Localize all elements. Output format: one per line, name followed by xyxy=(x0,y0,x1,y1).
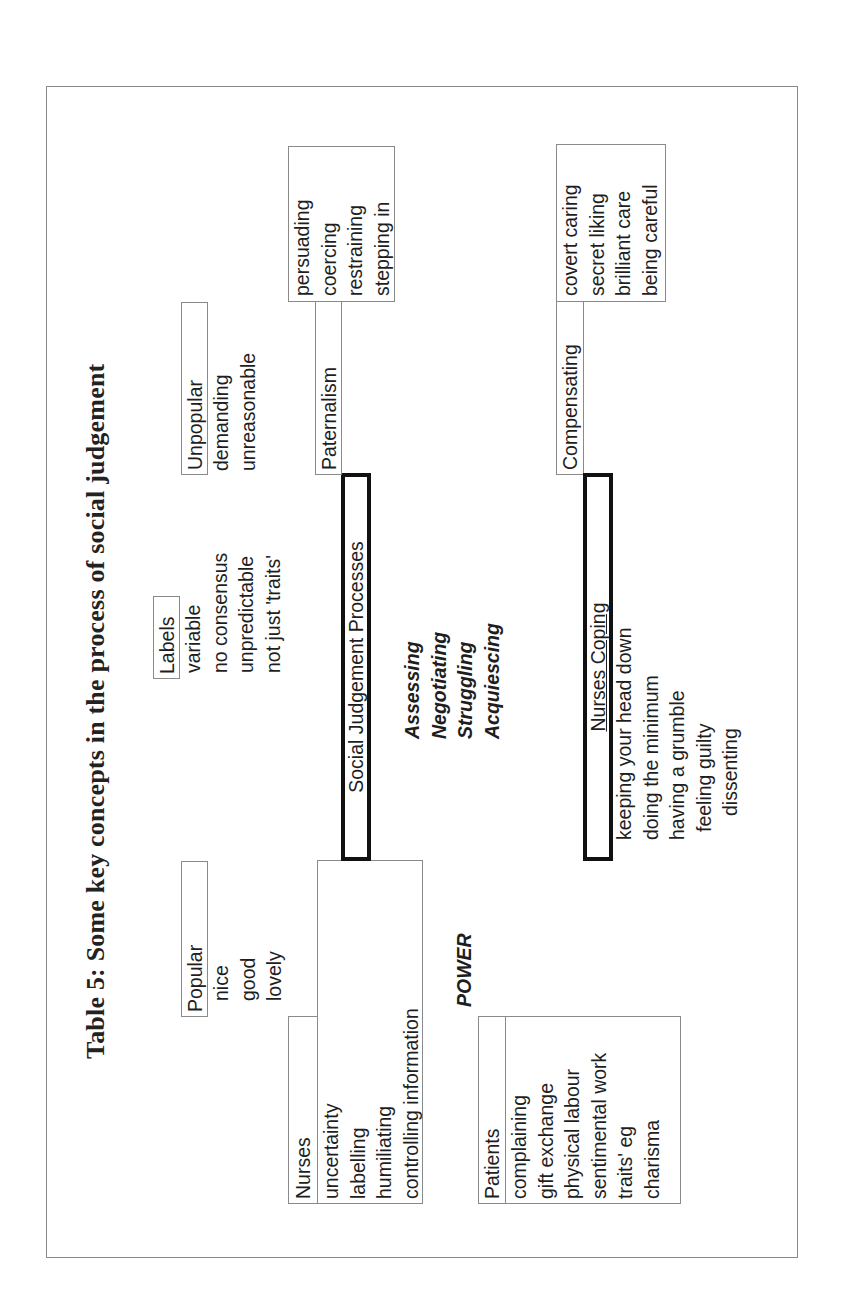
list-item: persuading xyxy=(289,147,316,296)
list-item: being careful xyxy=(637,145,664,296)
list-item: doing the minimum xyxy=(638,628,665,841)
list-item: nice xyxy=(208,951,235,1009)
popular-heading: Popular xyxy=(184,945,206,1012)
list-item: having a grumble xyxy=(664,628,691,841)
patients-list-box: complaining gift exchange physical labou… xyxy=(505,1016,681,1204)
list-item: restraining xyxy=(342,147,369,296)
list-item: covert caring xyxy=(557,145,584,296)
processes-list: Assessing Negotiating Struggling Acquies… xyxy=(399,623,505,739)
unpopular-heading: Unpopular xyxy=(184,380,206,470)
nurses-coping-list: keeping your head down doing the minimum… xyxy=(611,628,744,841)
paternalism-heading-box: Paternalism xyxy=(315,301,342,475)
list-item: controlling information xyxy=(398,861,425,1199)
unpopular-list: demanding unreasonable xyxy=(208,353,261,471)
list-item: unpredictable xyxy=(233,553,260,673)
process-assessing: Assessing xyxy=(399,623,426,739)
list-item: dissenting xyxy=(717,628,744,841)
list-item: charisma xyxy=(639,1017,666,1199)
list-item: traits' eg xyxy=(612,1017,639,1199)
list-item: variable xyxy=(180,553,207,673)
paternalism-heading: Paternalism xyxy=(318,367,340,470)
compensating-list-box: covert caring secret liking brilliant ca… xyxy=(556,144,666,302)
labels-heading-box: Labels xyxy=(153,596,180,679)
list-item: good xyxy=(235,951,262,1009)
labels-heading: Labels xyxy=(156,617,178,674)
list-item: stepping in xyxy=(369,147,396,296)
list-item: secret liking xyxy=(584,145,611,296)
list-item: humiliating xyxy=(371,861,398,1199)
power-label: POWER xyxy=(451,933,477,1007)
nurses-heading-box: Nurses xyxy=(288,1016,318,1204)
list-item: feeling guilty xyxy=(691,628,718,841)
list-item: lovely xyxy=(261,951,288,1009)
process-acquiescing: Acquiescing xyxy=(479,623,506,739)
nurses-coping-heading: Nurses Coping xyxy=(587,603,609,732)
list-item: unreasonable xyxy=(235,353,262,471)
list-item: complaining xyxy=(506,1017,533,1199)
process-negotiating: Negotiating xyxy=(426,623,453,739)
list-item: coercing xyxy=(316,147,343,296)
nurses-heading: Nurses xyxy=(292,1137,314,1199)
patients-heading-box: Patients xyxy=(478,1016,506,1204)
compensating-heading: Compensating xyxy=(559,344,581,470)
popular-heading-box: Popular xyxy=(181,861,208,1017)
list-item: sentimental work xyxy=(586,1017,613,1199)
list-item: demanding xyxy=(208,353,235,471)
labels-list: variable no consensus unpredictable not … xyxy=(180,553,286,673)
list-item: physical labour xyxy=(559,1017,586,1199)
diagram-frame: Table 5: Some key concepts in the proces… xyxy=(46,86,798,1258)
process-struggling: Struggling xyxy=(452,623,479,739)
unpopular-heading-box: Unpopular xyxy=(181,302,208,475)
table-title: Table 5: Some key concepts in the proces… xyxy=(81,364,111,1059)
patients-heading: Patients xyxy=(481,1129,503,1199)
list-item: gift exchange xyxy=(533,1017,560,1199)
list-item: uncertainty xyxy=(318,861,345,1199)
paternalism-list-box: persuading coercing restraining stepping… xyxy=(288,146,395,302)
popular-list: nice good lovely xyxy=(208,951,288,1009)
list-item: no consensus xyxy=(207,553,234,673)
list-item: brilliant care xyxy=(610,145,637,296)
social-judgement-heading: Social Judgement Processes xyxy=(345,541,367,792)
list-item: labelling xyxy=(345,861,372,1199)
compensating-heading-box: Compensating xyxy=(556,301,584,475)
nurses-coping-box: Nurses Coping xyxy=(583,473,613,861)
social-judgement-processes-box: Social Judgement Processes xyxy=(341,473,371,861)
nurses-list-box: uncertainty labelling humiliating contro… xyxy=(317,860,423,1204)
list-item: keeping your head down xyxy=(611,628,638,841)
list-item: not just 'traits' xyxy=(260,553,287,673)
